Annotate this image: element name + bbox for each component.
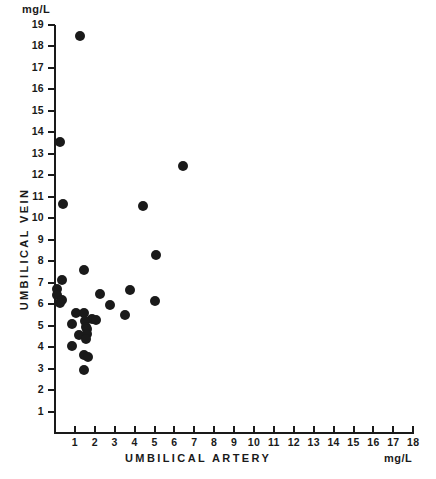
scatter-plot-figure: mg/L UMBILICAL VEIN UMBILICAL ARTERY mg/…: [0, 0, 436, 479]
x-axis-tick-label: 14: [324, 436, 344, 448]
x-axis-tick-label: 17: [383, 436, 403, 448]
scatter-point: [150, 296, 160, 306]
y-axis-tick-label: 5: [22, 319, 44, 331]
y-axis-tick: [48, 325, 55, 327]
y-axis-tick-label: 10: [22, 211, 44, 223]
y-axis-tick: [48, 260, 55, 262]
x-axis-tick-label: 15: [344, 436, 364, 448]
scatter-point: [151, 250, 161, 260]
y-axis-tick: [48, 88, 55, 90]
x-axis-tick: [233, 426, 235, 433]
y-axis-tick: [48, 239, 55, 241]
x-axis-tick-label: 13: [304, 436, 324, 448]
scatter-point: [105, 300, 115, 310]
y-axis-tick-label: 18: [22, 39, 44, 51]
x-axis-tick: [392, 426, 394, 433]
x-axis-tick-label: 2: [85, 436, 105, 448]
x-axis-tick: [213, 426, 215, 433]
y-axis-tick-label: 8: [22, 254, 44, 266]
x-axis-tick: [412, 426, 414, 433]
x-axis-tick-label: 7: [184, 436, 204, 448]
scatter-point: [75, 31, 85, 41]
x-axis-tick: [253, 426, 255, 433]
y-axis-tick: [48, 110, 55, 112]
scatter-point: [67, 319, 77, 329]
x-axis-tick-label: 18: [403, 436, 423, 448]
y-axis-tick: [48, 45, 55, 47]
x-axis-tick-label: 10: [244, 436, 264, 448]
scatter-point: [83, 352, 93, 362]
x-axis-tick: [372, 426, 374, 433]
y-axis-tick: [48, 411, 55, 413]
x-axis-tick-label: 8: [204, 436, 224, 448]
x-axis-tick-label: 4: [125, 436, 145, 448]
x-axis-tick: [74, 426, 76, 433]
scatter-point: [120, 310, 130, 320]
y-axis-tick: [48, 153, 55, 155]
y-axis-tick: [48, 389, 55, 391]
y-axis-tick-label: 19: [22, 18, 44, 30]
plot-area: [0, 0, 436, 479]
y-axis-tick-label: 3: [22, 362, 44, 374]
y-axis-tick-label: 17: [22, 61, 44, 73]
y-axis-tick-label: 7: [22, 276, 44, 288]
x-axis-tick-label: 3: [105, 436, 125, 448]
x-axis-tick-label: 5: [145, 436, 165, 448]
y-axis-tick-label: 6: [22, 297, 44, 309]
y-axis-tick: [48, 346, 55, 348]
scatter-point: [91, 315, 101, 325]
y-axis-tick: [48, 196, 55, 198]
scatter-point: [178, 161, 188, 171]
y-axis-tick: [48, 217, 55, 219]
x-axis-tick-label: 11: [264, 436, 284, 448]
y-axis-tick: [48, 303, 55, 305]
scatter-point: [58, 199, 68, 209]
x-axis-tick: [134, 426, 136, 433]
scatter-point: [95, 289, 105, 299]
y-axis-tick-label: 2: [22, 383, 44, 395]
y-axis-tick-label: 9: [22, 233, 44, 245]
scatter-point: [125, 285, 135, 295]
x-axis-tick-label: 1: [65, 436, 85, 448]
y-axis-tick-label: 13: [22, 147, 44, 159]
scatter-point: [55, 137, 65, 147]
scatter-point: [67, 341, 77, 351]
y-axis-tick-label: 15: [22, 104, 44, 116]
x-axis-tick: [193, 426, 195, 433]
scatter-point: [138, 201, 148, 211]
y-axis-tick: [48, 67, 55, 69]
x-axis-tick: [173, 426, 175, 433]
x-axis-unit-label: mg/L: [384, 452, 412, 464]
x-axis-tick-label: 16: [363, 436, 383, 448]
x-axis-tick: [273, 426, 275, 433]
y-axis-tick: [48, 368, 55, 370]
y-axis-tick-label: 16: [22, 82, 44, 94]
scatter-point: [55, 298, 65, 308]
x-axis-tick: [333, 426, 335, 433]
x-axis-tick-label: 12: [284, 436, 304, 448]
y-axis-tick: [48, 282, 55, 284]
scatter-point: [79, 265, 89, 275]
x-axis-tick: [154, 426, 156, 433]
y-axis-tick-label: 14: [22, 125, 44, 137]
x-axis-tick: [114, 426, 116, 433]
y-axis-tick: [48, 131, 55, 133]
y-axis-tick-label: 1: [22, 405, 44, 417]
y-axis-tick-label: 4: [22, 340, 44, 352]
x-axis-tick-label: 9: [224, 436, 244, 448]
x-axis-tick: [94, 426, 96, 433]
x-axis-tick: [313, 426, 315, 433]
scatter-point: [81, 334, 91, 344]
x-axis-tick: [353, 426, 355, 433]
y-axis-tick-label: 11: [22, 190, 44, 202]
x-axis-tick-label: 6: [164, 436, 184, 448]
x-axis-title: UMBILICAL ARTERY: [125, 452, 271, 464]
x-axis-tick: [293, 426, 295, 433]
y-axis-tick-label: 12: [22, 168, 44, 180]
scatter-point: [79, 365, 89, 375]
y-axis-tick: [48, 24, 55, 26]
y-axis-tick: [48, 174, 55, 176]
